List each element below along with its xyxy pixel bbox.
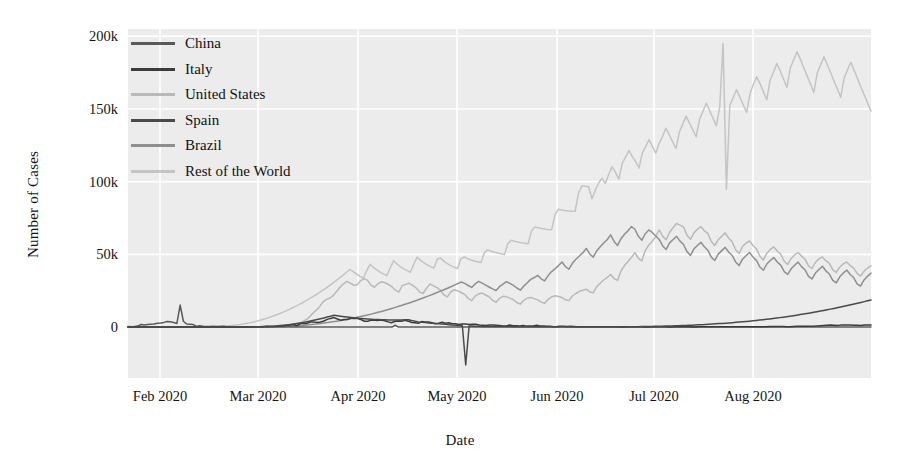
legend-swatch-icon bbox=[131, 170, 175, 173]
legend-item-china[interactable]: China bbox=[131, 31, 291, 57]
legend-swatch-icon bbox=[131, 42, 175, 45]
legend-swatch-icon bbox=[131, 93, 175, 96]
chart-figure: Number of Cases Date 050k100k150k200k Fe… bbox=[0, 0, 920, 466]
legend-swatch-icon bbox=[131, 119, 175, 122]
legend-item-spain[interactable]: Spain bbox=[131, 108, 291, 134]
legend-label: Brazil bbox=[185, 138, 222, 153]
legend-label: Italy bbox=[185, 62, 213, 77]
legend-swatch-icon bbox=[131, 144, 175, 147]
legend-label: United States bbox=[185, 87, 265, 102]
chart-legend: ChinaItalyUnited StatesSpainBrazilRest o… bbox=[131, 31, 291, 184]
legend-item-united-states[interactable]: United States bbox=[131, 82, 291, 108]
legend-label: China bbox=[185, 36, 221, 51]
legend-label: Rest of the World bbox=[185, 164, 291, 179]
legend-item-brazil[interactable]: Brazil bbox=[131, 133, 291, 159]
legend-item-rest-of-the-world[interactable]: Rest of the World bbox=[131, 159, 291, 185]
legend-item-italy[interactable]: Italy bbox=[131, 57, 291, 83]
legend-swatch-icon bbox=[131, 68, 175, 71]
legend-label: Spain bbox=[185, 113, 219, 128]
